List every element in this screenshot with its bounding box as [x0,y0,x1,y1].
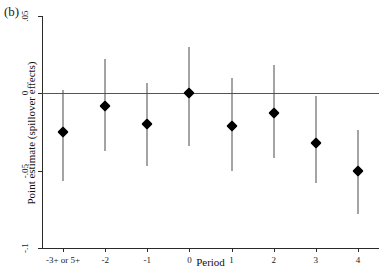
y-tick-mark [38,248,42,249]
point-estimate-marker [100,100,111,111]
point-estimate-marker [352,165,363,176]
x-tick-mark [316,248,317,252]
y-axis-title-text: Point estimate (spillover effects) [25,61,37,204]
x-tick-mark [189,248,190,252]
x-tick-mark [105,248,106,252]
x-axis-title: Period [42,256,379,268]
x-tick-mark [358,248,359,252]
y-tick-label: .05 [16,11,34,21]
point-estimate-marker [268,108,279,119]
x-tick-mark [274,248,275,252]
point-estimate-marker [184,88,195,99]
y-tick-mark [38,171,42,172]
point-estimate-marker [226,120,237,131]
y-tick-label: 0 [16,88,34,98]
point-estimate-marker [57,126,68,137]
x-tick-mark [232,248,233,252]
point-estimate-marker [142,119,153,130]
y-tick-label: -.1 [16,243,34,253]
y-axis-title: Point estimate (spillover effects) [23,33,39,233]
figure-panel-b: (b) Point estimate (spillover effects) .… [0,0,385,275]
y-tick-mark [38,16,42,17]
x-tick-mark [147,248,148,252]
x-tick-mark [63,248,64,252]
zero-reference-line [42,93,379,94]
y-tick-mark [38,93,42,94]
x-axis-line [42,248,379,249]
plot-area: .050-.05-.1 -3+ or 5+-2-101234 [42,16,379,248]
point-estimate-marker [310,137,321,148]
y-axis-line [42,16,43,248]
y-tick-label: -.05 [16,166,34,176]
